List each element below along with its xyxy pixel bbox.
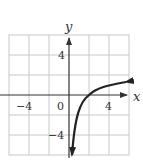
y-axis-label: y (64, 19, 73, 34)
tick-label-x-neg4: −4 (16, 100, 32, 113)
x-axis-label: x (133, 89, 141, 104)
tick-label-x-4: 4 (105, 100, 112, 113)
tick-label-y-neg4: −4 (48, 129, 64, 142)
curve (72, 82, 126, 155)
tick-label-y-4: 4 (58, 49, 65, 62)
tick-label-origin: 0 (57, 100, 64, 113)
graph: y x −4 0 4 4 −4 (0, 0, 143, 166)
